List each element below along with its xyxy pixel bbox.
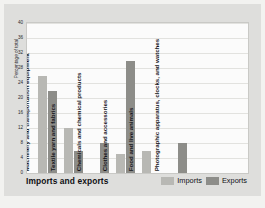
category-label: Chemicals and chemical products: [76, 72, 82, 171]
y-axis-tick-labels: 4036322824201612840: [4, 22, 25, 174]
legend-item-imports: Imports: [161, 176, 202, 185]
y-axis-tick: 8: [20, 140, 23, 145]
y-axis-tick: 12: [18, 125, 23, 130]
y-axis-tick: 20: [18, 95, 23, 100]
y-axis-tick: 36: [18, 35, 23, 40]
category-label: Textile yarn and fabrics: [50, 104, 56, 171]
category-label: Machinery and transportation equipment: [26, 53, 30, 171]
legend-swatch-imports: [161, 177, 174, 185]
chart-figure: Percentage of total 4036322824201612840 …: [4, 4, 261, 196]
y-axis-tick: 16: [18, 110, 23, 115]
category-label: Photographic apparatus, clocks, and watc…: [154, 39, 160, 171]
y-axis-tick: 0: [20, 170, 23, 175]
bars-layer: Machinery and transportation equipmentTe…: [27, 23, 248, 173]
gridline: [27, 173, 248, 174]
bar-group: Photographic apparatus, clocks, and watc…: [160, 23, 186, 173]
y-axis-tick: 32: [18, 50, 23, 55]
plot-area: Machinery and transportation equipmentTe…: [26, 22, 249, 174]
chart-title: Imports and exports: [26, 176, 108, 186]
category-label: Food and live animals: [128, 107, 134, 171]
bar-imports: [38, 76, 47, 174]
bar-imports: [64, 128, 73, 173]
category-label: Clothes and accessories: [102, 100, 108, 171]
legend-label-imports: Imports: [177, 176, 202, 185]
legend-label-exports: Exports: [222, 176, 247, 185]
y-axis-tick: 4: [20, 155, 23, 160]
bar-imports: [116, 154, 125, 173]
y-axis-tick: 28: [18, 65, 23, 70]
bar-exports: [178, 143, 187, 173]
legend-swatch-exports: [206, 177, 219, 185]
bar-imports: [142, 151, 151, 174]
y-axis-tick: 24: [18, 80, 23, 85]
legend-item-exports: Exports: [206, 176, 247, 185]
chart-legend: Imports Exports: [161, 176, 247, 185]
y-axis-tick: 40: [18, 20, 23, 25]
